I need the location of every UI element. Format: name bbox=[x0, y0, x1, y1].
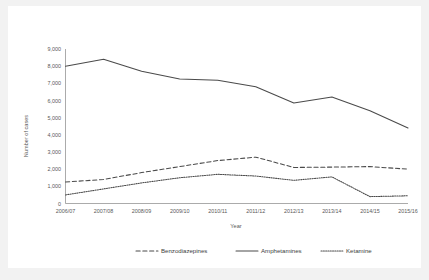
y-tick-label: 1,000 bbox=[48, 183, 62, 189]
line-chart: Number of cases 01,0002,0003,0004,0005,0… bbox=[8, 6, 421, 268]
y-tick-label: 3,000 bbox=[48, 149, 62, 155]
y-tick-label: 4,000 bbox=[48, 132, 62, 138]
y-tick-label: 9,000 bbox=[48, 46, 62, 52]
y-tick-label: 0 bbox=[58, 201, 61, 207]
y-axis-tick-labels: 01,0002,0003,0004,0005,0006,0007,0008,00… bbox=[48, 46, 62, 207]
y-tick-label: 6,000 bbox=[48, 98, 62, 104]
chart-plot-area: Number of cases 01,0002,0003,0004,0005,0… bbox=[8, 6, 421, 268]
series-line-ketamine bbox=[66, 174, 409, 196]
x-tick-label: 2011/12 bbox=[246, 208, 265, 214]
x-tick-label: 2015/16 bbox=[398, 208, 418, 214]
chart-legend: BenzodiazepinesAmphetaminesKetamine bbox=[136, 247, 372, 254]
x-tick-label: 2008/09 bbox=[132, 208, 152, 214]
x-axis-tick-labels: 2006/072007/082008/092009/102010/112011/… bbox=[56, 208, 418, 214]
x-tick-label: 2013/14 bbox=[322, 208, 342, 214]
legend-label-benzodiazepines: Benzodiazepines bbox=[161, 247, 207, 254]
x-tick-label: 2012/13 bbox=[284, 208, 304, 214]
y-tick-label: 2,000 bbox=[48, 166, 62, 172]
series-line-amphetamines bbox=[66, 59, 409, 128]
y-axis-title: Number of cases bbox=[23, 115, 29, 157]
x-axis-title: Year bbox=[230, 223, 241, 229]
chart-figure: Number of cases 01,0002,0003,0004,0005,0… bbox=[8, 6, 421, 268]
x-tick-label: 2009/10 bbox=[170, 208, 190, 214]
series-line-benzodiazepines bbox=[66, 157, 409, 182]
legend-label-ketamine: Ketamine bbox=[346, 247, 372, 254]
x-tick-label: 2006/07 bbox=[56, 208, 76, 214]
x-tick-label: 2010/11 bbox=[208, 208, 227, 214]
y-tick-label: 7,000 bbox=[48, 80, 62, 86]
data-series-group bbox=[66, 59, 409, 196]
x-tick-label: 2014/15 bbox=[360, 208, 380, 214]
x-tick-label: 2007/08 bbox=[94, 208, 114, 214]
y-tick-label: 5,000 bbox=[48, 115, 62, 121]
legend-label-amphetamines: Amphetamines bbox=[261, 247, 302, 254]
y-tick-label: 8,000 bbox=[48, 63, 62, 69]
